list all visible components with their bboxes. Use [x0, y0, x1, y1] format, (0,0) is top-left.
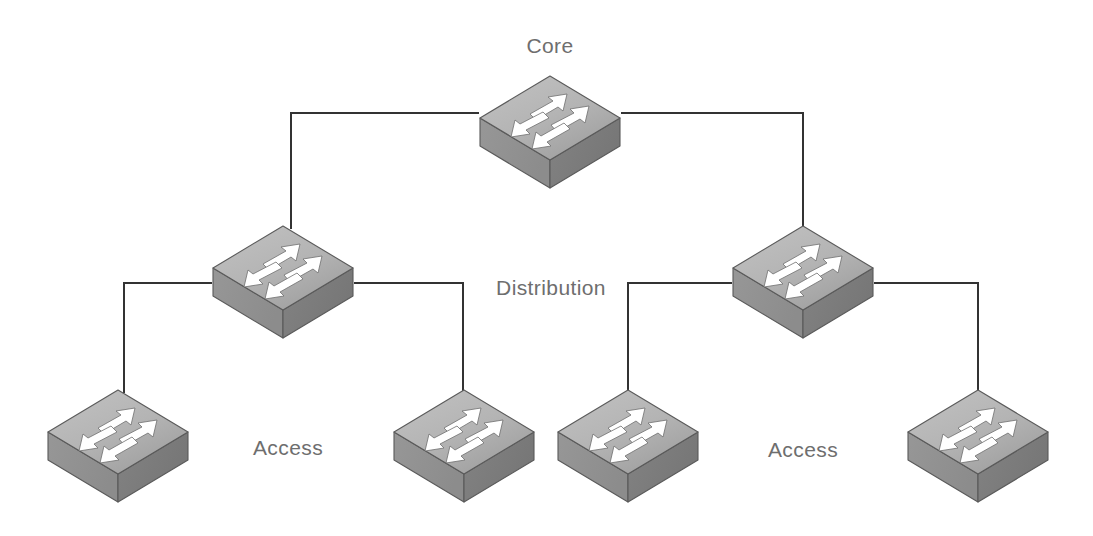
link-distribution-right-to-access-3	[628, 283, 731, 392]
link-core-to-distribution-left	[291, 113, 478, 228]
access-switch-2[interactable]	[392, 386, 536, 504]
label-core: Core	[526, 34, 573, 58]
label-access-left: Access	[253, 436, 323, 460]
link-distribution-left-to-access-2	[355, 283, 463, 392]
core-switch[interactable]	[478, 72, 622, 190]
access-switch-1[interactable]	[46, 386, 190, 504]
access-switch-4[interactable]	[906, 386, 1050, 504]
distribution-switch-right[interactable]	[731, 222, 875, 340]
network-topology-diagram: CoreDistributionAccessAccess	[0, 0, 1093, 536]
distribution-switch-left[interactable]	[211, 222, 355, 340]
access-switch-3[interactable]	[556, 386, 700, 504]
link-core-to-distribution-right	[622, 113, 803, 228]
label-distribution: Distribution	[496, 276, 606, 300]
link-distribution-right-to-access-4	[875, 283, 978, 392]
label-access-right: Access	[768, 438, 838, 462]
link-distribution-left-to-access-1	[124, 283, 211, 392]
